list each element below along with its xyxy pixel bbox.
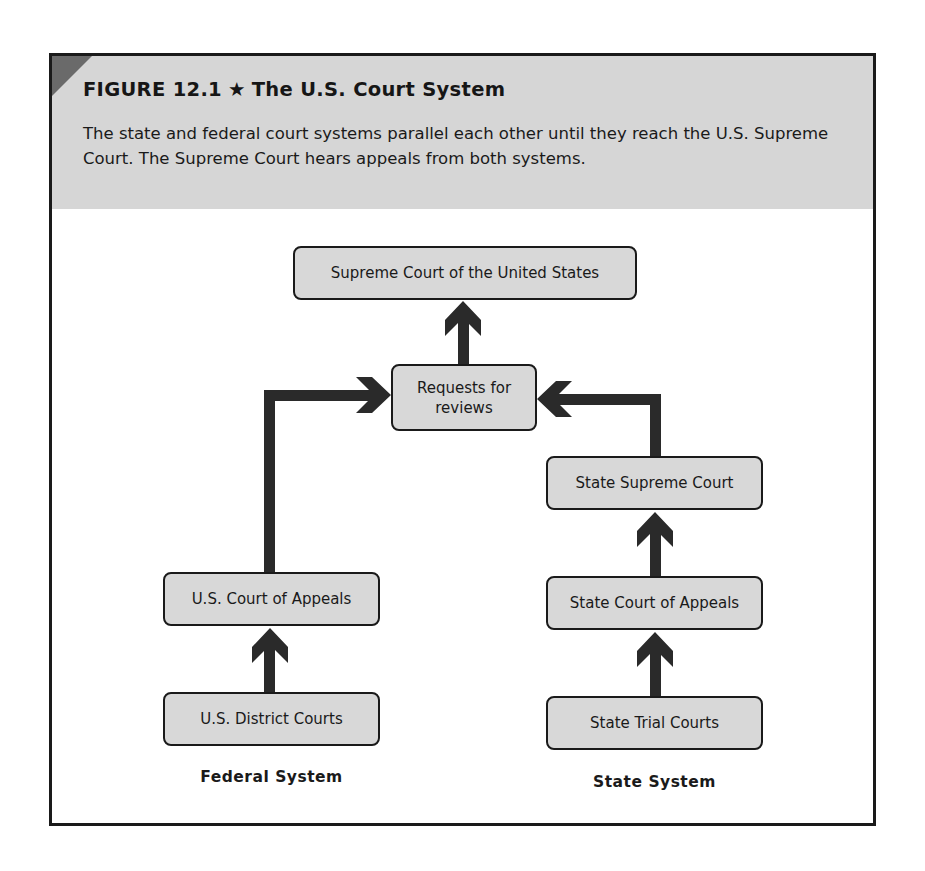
node-label: Supreme Court of the United States	[331, 263, 599, 283]
arrow-district-to-appeals	[252, 628, 288, 693]
arrow-state-trial-to-state-appeals	[637, 632, 673, 697]
node-label: U.S. Court of Appeals	[192, 589, 352, 609]
node-state-trial-courts: State Trial Courts	[546, 696, 763, 750]
arrow-state-supreme-to-requests	[537, 381, 661, 457]
node-label: U.S. District Courts	[200, 709, 342, 729]
arrow-state-appeals-to-state-supreme	[637, 512, 673, 577]
node-label-line1: Requests for	[417, 378, 511, 398]
node-state-court-of-appeals: State Court of Appeals	[546, 576, 763, 630]
node-us-district-courts: U.S. District Courts	[163, 692, 380, 746]
federal-system-label: Federal System	[163, 768, 380, 786]
connector-arrows	[0, 0, 925, 871]
node-requests-for-review: Requests for reviews	[391, 364, 537, 431]
node-label: State Court of Appeals	[570, 593, 739, 613]
node-label: State Trial Courts	[590, 713, 719, 733]
arrow-federal-appeals-to-requests	[264, 377, 391, 573]
arrow-requests-to-supreme	[445, 301, 481, 365]
node-label-line2: reviews	[435, 398, 492, 418]
node-label: State Supreme Court	[576, 473, 734, 493]
node-state-supreme-court: State Supreme Court	[546, 456, 763, 510]
node-supreme-court-us: Supreme Court of the United States	[293, 246, 637, 300]
state-system-label: State System	[546, 773, 763, 791]
node-us-court-of-appeals: U.S. Court of Appeals	[163, 572, 380, 626]
